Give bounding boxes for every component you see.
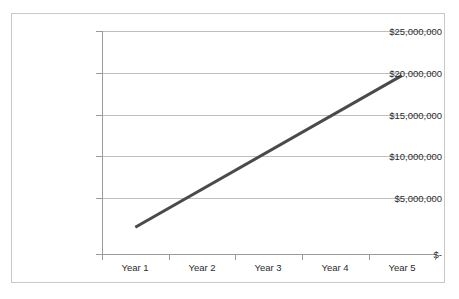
y-axis-tick (96, 198, 103, 199)
x-axis-label-year-2: Year 2 (188, 262, 215, 273)
x-axis-tick (102, 255, 103, 260)
x-axis-tick (435, 255, 436, 260)
chart-container: $25,000,000 $20,000,000 $15,000,000 $10,… (11, 13, 445, 283)
y-axis-label-15000000: $15,000,000 (362, 110, 446, 121)
y-axis-tick (96, 115, 103, 116)
x-axis-tick (369, 255, 370, 260)
y-axis-tick (96, 156, 103, 157)
x-axis-tick (302, 255, 303, 260)
y-axis-label-20000000: $20,000,000 (362, 68, 446, 79)
y-axis-label-10000000: $10,000,000 (362, 151, 446, 162)
x-axis-tick (169, 255, 170, 260)
x-axis-label-year-1: Year 1 (121, 262, 148, 273)
y-axis-label-5000000: $5,000,000 (362, 193, 446, 204)
axis-labels-layer: $25,000,000 $20,000,000 $15,000,000 $10,… (12, 14, 446, 284)
x-axis-label-year-4: Year 4 (321, 262, 348, 273)
x-axis-label-year-3: Year 3 (254, 262, 281, 273)
y-axis-label-0: $- (362, 249, 446, 260)
y-axis-label-25000000: $25,000,000 (362, 26, 446, 37)
x-axis-label-year-5: Year 5 (388, 262, 415, 273)
x-axis-tick (235, 255, 236, 260)
y-axis-tick (96, 73, 103, 74)
y-axis-tick (96, 31, 103, 32)
